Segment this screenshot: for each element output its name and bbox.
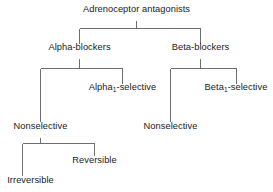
node-root: Adrenoceptor antagonists [0,4,273,15]
node-reversible: Reversible [60,155,129,166]
node-beta1-prefix: Beta [205,82,224,92]
node-alpha-blockers: Alpha-blockers [19,42,140,53]
node-reversible-label: Reversible [72,155,116,165]
node-beta-blockers-label: Beta-blockers [172,42,230,52]
node-alpha-nonselective-label: Nonselective [14,121,68,131]
node-beta-nonselective-label: Nonselective [144,121,198,131]
node-beta-blockers: Beta-blockers [145,42,256,53]
node-irreversible-label: Irreversible [7,175,54,185]
node-alpha1-subscript: 1 [113,86,117,93]
node-alpha-blockers-label: Alpha-blockers [48,42,110,52]
node-root-label: Adrenoceptor antagonists [83,4,190,14]
node-irreversible: Irreversible [0,175,61,186]
node-alpha1-selective-label: Alpha1-selective [89,82,157,92]
node-beta1-subscript: 1 [224,86,228,93]
node-beta1-selective: Beta1-selective [193,82,273,93]
node-alpha-nonselective: Nonselective [0,121,81,132]
adrenoceptor-antagonists-diagram: Adrenoceptor antagonists Alpha-blockers … [0,0,273,192]
node-beta1-suffix: -selective [228,82,268,92]
node-beta-nonselective: Nonselective [130,121,211,132]
connector-lines [0,0,273,192]
node-alpha1-prefix: Alpha [89,82,113,92]
node-beta1-selective-label: Beta1-selective [205,82,268,92]
node-alpha1-selective: Alpha1-selective [77,82,168,93]
node-alpha1-suffix: -selective [116,82,156,92]
